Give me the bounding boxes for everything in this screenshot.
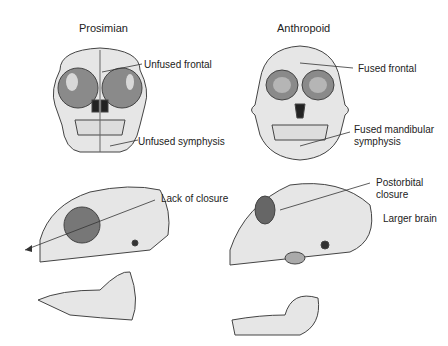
skull-diagram <box>0 0 448 346</box>
label-fused-mandibular-2: symphysis <box>354 136 401 147</box>
title-anthropoid: Anthropoid <box>277 23 330 34</box>
anthropoid-side-skull <box>230 184 372 335</box>
prosimian-side-skull <box>38 187 169 320</box>
label-larger-brain: Larger brain <box>383 213 437 224</box>
label-fused-frontal: Fused frontal <box>358 63 416 74</box>
prosimian-front-skull <box>53 48 146 152</box>
label-postorbital: Postorbital <box>376 177 423 188</box>
label-postorbital-2: closure <box>376 189 408 200</box>
label-unfused-frontal: Unfused frontal <box>144 59 212 70</box>
label-unfused-symphysis: Unfused symphysis <box>138 136 225 147</box>
label-lack-of-closure: Lack of closure <box>161 193 228 204</box>
title-prosimian: Prosimian <box>79 23 128 34</box>
label-fused-mandibular: Fused mandibular <box>354 124 434 135</box>
